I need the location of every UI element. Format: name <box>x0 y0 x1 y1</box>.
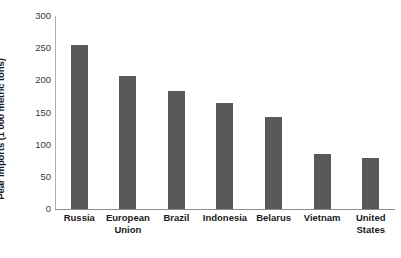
bar-slot <box>346 16 395 209</box>
y-tick-label: 100 <box>5 140 51 150</box>
x-axis-label: Belarus <box>249 212 298 224</box>
y-tick-label: 200 <box>5 75 51 85</box>
y-tick-label: 0 <box>5 204 51 214</box>
x-axis-label-line: Vietnam <box>298 212 347 224</box>
bar[interactable] <box>71 45 88 209</box>
x-axis-label-line: United <box>346 212 395 224</box>
x-axis-label-line: States <box>346 224 395 236</box>
y-axis-tick-labels: 050100150200250300 <box>0 0 51 258</box>
bar-slot <box>152 16 201 209</box>
pear-imports-bar-chart: Pear imports (1 000 metric tons) 0501001… <box>0 0 401 258</box>
x-axis-label-line: Brazil <box>152 212 201 224</box>
y-tick-label: 50 <box>5 172 51 182</box>
x-axis-label-line: Russia <box>55 212 104 224</box>
bar-slot <box>298 16 347 209</box>
x-axis-label: Indonesia <box>201 212 250 224</box>
x-axis-label: EuropeanUnion <box>104 212 153 236</box>
x-axis-label: UnitedStates <box>346 212 395 236</box>
bar-slot <box>249 16 298 209</box>
x-axis-label: Brazil <box>152 212 201 224</box>
x-axis-label-line: Belarus <box>249 212 298 224</box>
bar-slot <box>104 16 153 209</box>
bar-slot <box>201 16 250 209</box>
y-tick-label: 300 <box>5 11 51 21</box>
x-axis-label-line: Indonesia <box>201 212 250 224</box>
x-axis-label: Vietnam <box>298 212 347 224</box>
x-axis-category-labels: RussiaEuropeanUnionBrazilIndonesiaBelaru… <box>55 212 395 258</box>
plot-area <box>55 16 395 209</box>
bar-slot <box>55 16 104 209</box>
bar[interactable] <box>119 76 136 209</box>
x-axis-label-line: Union <box>104 224 153 236</box>
bar[interactable] <box>168 91 185 209</box>
y-tick-label: 150 <box>5 108 51 118</box>
bar[interactable] <box>265 117 282 209</box>
x-axis-line <box>55 209 395 210</box>
y-tick-label: 250 <box>5 43 51 53</box>
bar[interactable] <box>314 154 331 209</box>
x-axis-label: Russia <box>55 212 104 224</box>
bar[interactable] <box>362 158 379 209</box>
bar[interactable] <box>216 103 233 209</box>
x-axis-label-line: European <box>104 212 153 224</box>
